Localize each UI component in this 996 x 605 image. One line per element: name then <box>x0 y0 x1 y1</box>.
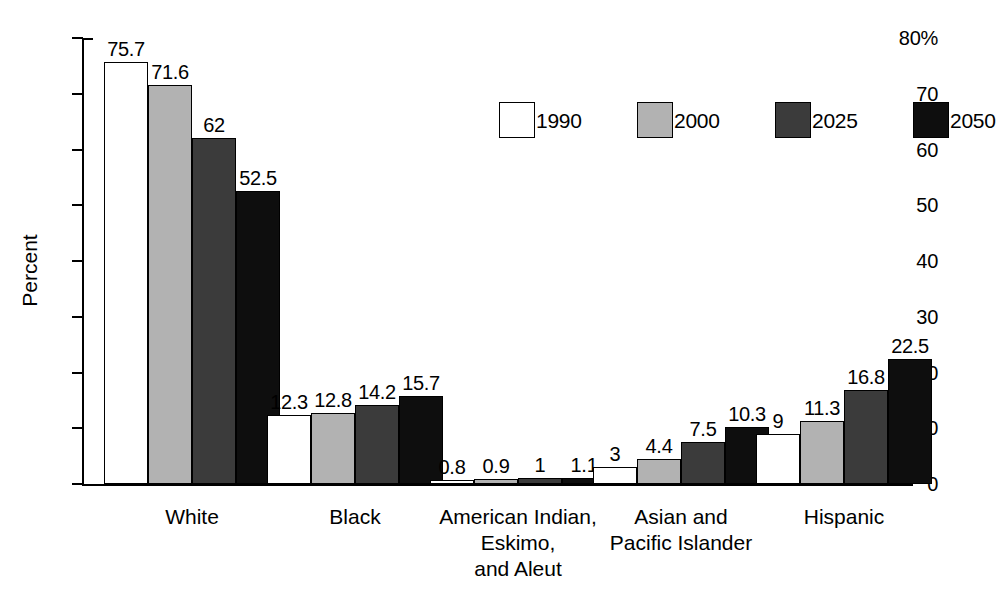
black-swatch <box>913 102 949 138</box>
bar-group: 12.312.814.215.7 <box>267 38 443 484</box>
bar-value-label: 71.6 <box>134 62 206 82</box>
bar-2000-black <box>311 413 355 484</box>
x-axis-label-line: Pacific Islander <box>556 530 806 556</box>
bar-2025-white <box>192 138 236 484</box>
y-axis-title: Percent <box>19 211 40 331</box>
bar-1990-hispanic <box>756 434 800 484</box>
bar-1990-asian-and-pacific-islander <box>593 467 637 484</box>
legend-item-2000[interactable]: 2000 <box>637 101 720 139</box>
bar-1990-black <box>267 415 311 484</box>
bar-2025-hispanic <box>844 390 888 484</box>
bar-2000-white <box>148 85 192 484</box>
dark-gray-swatch <box>775 102 811 138</box>
legend-label: 2050 <box>950 110 996 131</box>
bar-2000-american-indian <box>474 479 518 484</box>
light-gray-swatch <box>637 102 673 138</box>
x-axis-label-line: and Aleut <box>393 556 643 582</box>
bar-1990-american-indian <box>430 480 474 484</box>
bar-1990-white <box>104 62 148 484</box>
bar-2050-hispanic <box>888 359 932 484</box>
white-swatch <box>499 102 535 138</box>
bar-2000-asian-and-pacific-islander <box>637 459 681 484</box>
legend-item-2050[interactable]: 2050 <box>913 101 996 139</box>
bar-value-label: 62 <box>178 115 250 135</box>
x-axis-label-line: Hispanic <box>719 504 969 530</box>
bar-2025-black <box>355 405 399 484</box>
legend-label: 2025 <box>812 110 858 131</box>
legend-label: 2000 <box>674 110 720 131</box>
bar-value-label: 75.7 <box>90 39 162 59</box>
legend-item-1990[interactable]: 1990 <box>499 101 582 139</box>
bar-group: 75.771.66252.5 <box>104 38 280 484</box>
legend-item-2025[interactable]: 2025 <box>775 101 858 139</box>
x-axis-line <box>82 484 913 486</box>
x-axis-label-hispanic: Hispanic <box>719 504 969 530</box>
legend-label: 1990 <box>536 110 582 131</box>
bar-value-label: 22.5 <box>874 336 946 356</box>
bar-2000-hispanic <box>800 421 844 484</box>
bar-2025-american-indian <box>518 478 562 484</box>
bar-2025-asian-and-pacific-islander <box>681 442 725 484</box>
